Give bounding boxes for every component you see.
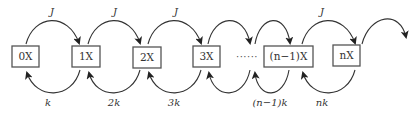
- backward-arrow-3-2: [149, 70, 201, 93]
- state-label: 1X: [79, 50, 94, 62]
- state-label: nX: [339, 49, 354, 61]
- ellipsis: ······: [236, 51, 258, 62]
- state-label: 0X: [18, 50, 33, 62]
- forward-arrow-n1-n: [302, 21, 355, 44]
- state-nX: nX: [333, 45, 360, 66]
- state-n-minus-1-X: (n−1)X: [264, 46, 313, 67]
- forward-rate-label: J: [318, 6, 325, 17]
- backward-rate-label: 2k: [107, 97, 120, 108]
- forward-arrow-2-3: [148, 21, 201, 44]
- markov-chain-diagram: 0X 1X 2X 3X ······ (n−1)X nX J J J J k 2…: [0, 0, 420, 114]
- forward-rate-label: J: [111, 6, 118, 17]
- forward-rate-label: J: [172, 6, 179, 17]
- forward-arrow-ellipsis-n1: [255, 21, 290, 44]
- backward-arrow-ellipsis-3: [209, 70, 250, 93]
- forward-rate-label: J: [48, 6, 55, 17]
- backward-arrow-1-0: [27, 70, 80, 93]
- state-1X: 1X: [72, 46, 100, 67]
- forward-arrow-3-ellipsis: [208, 21, 250, 44]
- forward-arrow-1-2: [88, 21, 140, 44]
- state-label: 2X: [140, 51, 155, 63]
- backward-rate-label: k: [45, 97, 51, 108]
- backward-arrow-n1-ellipsis: [255, 70, 289, 93]
- state-3X: 3X: [193, 46, 220, 67]
- backward-arrow-n-n1: [303, 70, 355, 93]
- state-2X: 2X: [133, 47, 161, 68]
- backward-rate-label: (n−1)k: [252, 97, 287, 108]
- forward-arrow-n-out: [362, 19, 406, 44]
- forward-arrow-0-1: [26, 21, 79, 44]
- state-label: 3X: [199, 50, 214, 62]
- backward-rate-label: nk: [316, 97, 329, 108]
- backward-arrow-2-1: [89, 70, 140, 93]
- backward-rate-label: 3k: [168, 97, 180, 108]
- state-label: (n−1)X: [270, 50, 308, 62]
- state-0X: 0X: [12, 46, 39, 67]
